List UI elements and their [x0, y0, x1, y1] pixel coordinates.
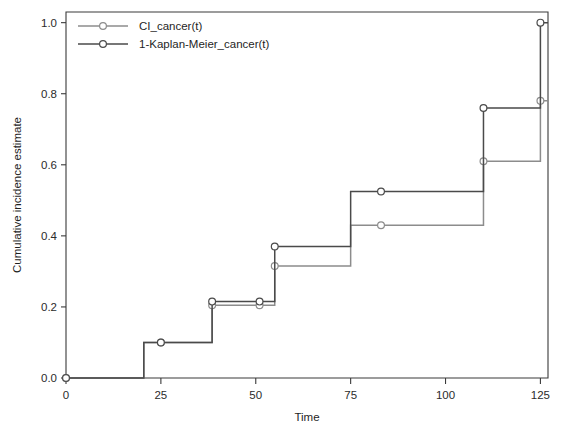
data-point-marker [157, 339, 164, 346]
y-tick-label: 1.0 [41, 17, 57, 29]
x-tick-label: 25 [154, 389, 167, 401]
data-point-marker [256, 298, 263, 305]
x-tick-label: 0 [63, 389, 69, 401]
x-tick-label: 100 [436, 389, 455, 401]
chart-figure: 0.00.20.40.60.81.0 0255075100125 CI_canc… [0, 0, 567, 440]
data-point-marker [378, 188, 385, 195]
data-point-marker [378, 222, 385, 229]
legend-label: CI_cancer(t) [139, 20, 202, 32]
y-tick-label: 0.4 [41, 230, 58, 242]
data-point-marker [209, 298, 216, 305]
y-tick-label: 0.2 [41, 301, 57, 313]
data-point-marker [271, 243, 278, 250]
x-tick-label: 50 [249, 389, 262, 401]
data-point-marker [537, 19, 544, 26]
y-axis-title: Cumulative incidence estimate [11, 117, 23, 273]
x-axis-title: Time [294, 411, 319, 423]
cumulative-incidence-chart: 0.00.20.40.60.81.0 0255075100125 CI_canc… [0, 0, 567, 440]
y-tick-label: 0.6 [41, 159, 57, 171]
legend-swatch-marker [100, 41, 107, 48]
legend-swatch-marker [100, 23, 107, 30]
y-tick-label: 0.8 [41, 88, 57, 100]
legend-label: 1-Kaplan-Meier_cancer(t) [139, 38, 270, 50]
x-tick-label: 125 [531, 389, 550, 401]
chart-background [0, 0, 567, 440]
data-point-marker [480, 105, 487, 112]
data-point-marker [63, 375, 70, 382]
x-tick-label: 75 [344, 389, 357, 401]
y-tick-label: 0.0 [41, 372, 57, 384]
